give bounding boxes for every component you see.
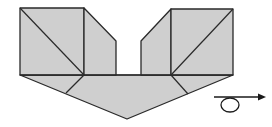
turn-over-arrow-icon [214, 94, 266, 113]
base-flap [20, 75, 233, 119]
diagram-svg [0, 0, 272, 127]
left-side-flap [84, 8, 116, 75]
right-side-flap [141, 9, 171, 75]
origami-diagram [0, 0, 272, 127]
